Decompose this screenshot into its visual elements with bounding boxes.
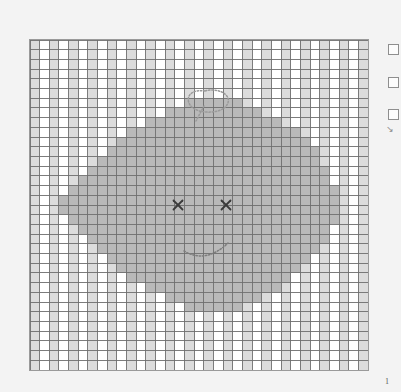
grid-cell[interactable] <box>271 156 281 166</box>
grid-cell[interactable] <box>156 127 166 137</box>
grid-cell[interactable] <box>30 127 40 137</box>
grid-cell[interactable] <box>98 98 108 108</box>
grid-cell[interactable] <box>69 59 79 69</box>
grid-cell[interactable] <box>281 156 291 166</box>
grid-cell[interactable] <box>185 127 195 137</box>
grid-cell[interactable] <box>59 234 69 244</box>
grid-cell[interactable] <box>339 176 349 186</box>
grid-cell[interactable] <box>252 224 262 234</box>
grid-cell[interactable] <box>358 156 368 166</box>
grid-cell[interactable] <box>40 59 50 69</box>
grid-cell[interactable] <box>204 79 214 89</box>
grid-cell[interactable] <box>358 215 368 225</box>
grid-cell[interactable] <box>136 40 146 50</box>
grid-cell[interactable] <box>30 312 40 322</box>
grid-cell[interactable] <box>271 331 281 341</box>
grid-cell[interactable] <box>358 273 368 283</box>
grid-cell[interactable] <box>59 244 69 254</box>
grid-cell[interactable] <box>300 59 310 69</box>
grid-cell[interactable] <box>291 224 301 234</box>
grid-cell[interactable] <box>194 118 204 128</box>
grid-cell[interactable] <box>320 137 330 147</box>
grid-cell[interactable] <box>339 79 349 89</box>
grid-cell[interactable] <box>185 234 195 244</box>
grid-cell[interactable] <box>30 273 40 283</box>
grid-cell[interactable] <box>175 50 185 60</box>
grid-cell[interactable] <box>165 59 175 69</box>
grid-cell[interactable] <box>175 166 185 176</box>
grid-cell[interactable] <box>98 166 108 176</box>
grid-cell[interactable] <box>175 263 185 273</box>
grid-cell[interactable] <box>358 127 368 137</box>
grid-cell[interactable] <box>88 166 98 176</box>
grid-cell[interactable] <box>69 331 79 341</box>
grid-cell[interactable] <box>185 331 195 341</box>
grid-cell[interactable] <box>59 137 69 147</box>
grid-cell[interactable] <box>262 186 272 196</box>
grid-cell[interactable] <box>59 40 69 50</box>
grid-cell[interactable] <box>339 302 349 312</box>
grid-cell[interactable] <box>98 59 108 69</box>
grid-cell[interactable] <box>262 283 272 293</box>
grid-cell[interactable] <box>204 40 214 50</box>
grid-cell[interactable] <box>156 273 166 283</box>
grid-cell[interactable] <box>204 234 214 244</box>
grid-cell[interactable] <box>49 215 59 225</box>
grid-cell[interactable] <box>117 321 127 331</box>
grid-cell[interactable] <box>252 147 262 157</box>
grid-cell[interactable] <box>136 234 146 244</box>
grid-cell[interactable] <box>310 127 320 137</box>
grid-cell[interactable] <box>194 195 204 205</box>
grid-cell[interactable] <box>59 283 69 293</box>
grid-cell[interactable] <box>30 118 40 128</box>
grid-cell[interactable] <box>136 312 146 322</box>
grid-cell[interactable] <box>185 302 195 312</box>
grid-cell[interactable] <box>262 50 272 60</box>
grid-cell[interactable] <box>194 166 204 176</box>
grid-cell[interactable] <box>165 224 175 234</box>
grid-cell[interactable] <box>291 89 301 99</box>
grid-cell[interactable] <box>310 108 320 118</box>
grid-cell[interactable] <box>165 108 175 118</box>
grid-cell[interactable] <box>310 98 320 108</box>
grid-cell[interactable] <box>252 50 262 60</box>
grid-cell[interactable] <box>271 98 281 108</box>
grid-cell[interactable] <box>213 118 223 128</box>
grid-cell[interactable] <box>233 186 243 196</box>
grid-cell[interactable] <box>175 156 185 166</box>
grid-cell[interactable] <box>165 254 175 264</box>
grid-cell[interactable] <box>59 215 69 225</box>
grid-cell[interactable] <box>329 186 339 196</box>
grid-cell[interactable] <box>88 302 98 312</box>
grid-cell[interactable] <box>310 351 320 361</box>
grid-cell[interactable] <box>252 234 262 244</box>
grid-cell[interactable] <box>49 312 59 322</box>
grid-cell[interactable] <box>213 176 223 186</box>
grid-cell[interactable] <box>156 331 166 341</box>
grid-cell[interactable] <box>30 321 40 331</box>
grid-cell[interactable] <box>146 98 156 108</box>
grid-cell[interactable] <box>213 321 223 331</box>
grid-cell[interactable] <box>281 341 291 351</box>
grid-cell[interactable] <box>320 341 330 351</box>
grid-cell[interactable] <box>300 341 310 351</box>
grid-cell[interactable] <box>136 166 146 176</box>
grid-cell[interactable] <box>146 195 156 205</box>
grid-cell[interactable] <box>49 195 59 205</box>
grid-cell[interactable] <box>349 263 359 273</box>
grid-cell[interactable] <box>252 166 262 176</box>
grid-cell[interactable] <box>223 79 233 89</box>
grid-cell[interactable] <box>271 89 281 99</box>
grid-cell[interactable] <box>165 234 175 244</box>
grid-cell[interactable] <box>320 234 330 244</box>
grid-cell[interactable] <box>40 108 50 118</box>
grid-cell[interactable] <box>175 127 185 137</box>
grid-cell[interactable] <box>40 351 50 361</box>
grid-cell[interactable] <box>175 283 185 293</box>
grid-cell[interactable] <box>262 341 272 351</box>
grid-cell[interactable] <box>281 312 291 322</box>
grid-cell[interactable] <box>30 59 40 69</box>
grid-cell[interactable] <box>194 341 204 351</box>
grid-cell[interactable] <box>223 302 233 312</box>
grid-cell[interactable] <box>127 321 137 331</box>
